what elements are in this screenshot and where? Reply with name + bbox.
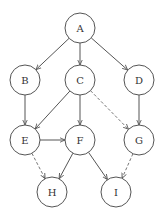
node-label: G (135, 135, 143, 146)
node-label: H (48, 187, 57, 198)
node-g: G (124, 125, 154, 155)
edge-f-h (59, 153, 73, 179)
node-a: A (65, 13, 95, 43)
nodes-layer: ABCDEFGHI (10, 13, 154, 207)
node-h: H (37, 177, 67, 207)
node-e: E (10, 125, 40, 155)
edge-e-h (32, 153, 45, 178)
edge-c-g (91, 91, 129, 130)
node-label: D (135, 75, 143, 86)
node-f: F (65, 125, 95, 155)
edges-layer (25, 38, 139, 180)
node-label: E (21, 135, 28, 146)
node-label: F (77, 135, 84, 146)
node-b: B (10, 65, 40, 95)
directed-graph-diagram: ABCDEFGHI (0, 0, 163, 220)
edge-f-i (89, 152, 108, 179)
node-label: I (114, 187, 118, 198)
edge-g-i (122, 154, 133, 179)
node-i: I (101, 177, 131, 207)
edge-a-d (91, 38, 127, 70)
node-d: D (124, 65, 154, 95)
edge-c-e (35, 91, 70, 129)
node-c: C (65, 65, 95, 95)
edge-a-b (36, 38, 69, 69)
node-label: B (21, 75, 28, 86)
node-label: A (75, 23, 84, 34)
node-label: C (76, 75, 84, 86)
